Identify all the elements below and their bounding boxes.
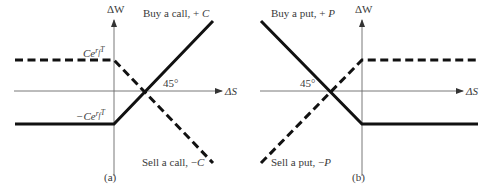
y-axis-label: ΔW [355, 3, 373, 15]
buy-put-payoff-line [261, 21, 478, 124]
sell-put-label: Sell a put, −P [271, 156, 331, 168]
option-payoff-diagrams: ΔW ΔS CerfT −CerfT 45° Buy a call, + C S… [0, 0, 491, 187]
angle-label: 45° [300, 77, 315, 89]
panel-a-call: ΔW ΔS CerfT −CerfT 45° Buy a call, + C S… [14, 3, 237, 184]
x-axis-label: ΔS [224, 85, 237, 97]
y-axis-label: ΔW [107, 3, 125, 15]
buy-call-label: Buy a call, + C [143, 7, 210, 19]
x-axis-label: ΔS [465, 85, 478, 97]
lower-level-label: −CerfT [76, 108, 106, 122]
panel-a-caption: (a) [104, 171, 117, 184]
sell-call-label: Sell a call, −C [142, 156, 205, 168]
sell-put-payoff-line [261, 60, 478, 163]
panel-b-put: ΔW ΔS 45° Buy a put, + P Sell a put, −P … [260, 3, 478, 184]
upper-level-label: CerfT [83, 45, 105, 59]
angle-label: 45° [163, 77, 178, 89]
buy-put-label: Buy a put, + P [271, 7, 335, 19]
panel-b-caption: (b) [352, 171, 365, 184]
